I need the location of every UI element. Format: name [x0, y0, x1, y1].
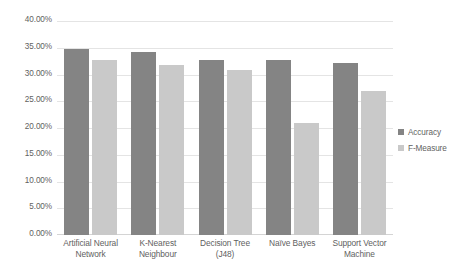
- bar-group: [259, 21, 326, 235]
- x-axis-category-label: Naïve Bayes: [259, 238, 326, 260]
- legend-swatch-icon: [398, 129, 404, 135]
- bar-fmeasure: [361, 91, 386, 235]
- bar-accuracy: [64, 49, 89, 235]
- bar-fmeasure: [92, 60, 117, 235]
- bar-group: [326, 21, 393, 235]
- bar-chart: 40.00% 35.00% 30.00% 25.00% 20.00% 15.00…: [0, 0, 464, 280]
- y-axis-tick-label: 25.00%: [0, 95, 52, 104]
- y-axis-tick-label: 15.00%: [0, 149, 52, 158]
- bar-accuracy: [199, 60, 224, 235]
- x-axis-category-label: K-Nearest Neighbour: [124, 238, 191, 260]
- x-axis-category-label: Decision Tree (J48): [191, 238, 258, 260]
- bar-accuracy: [266, 60, 291, 235]
- bar-group: [124, 21, 191, 235]
- y-axis-tick-label: 35.00%: [0, 42, 52, 51]
- legend-swatch-icon: [398, 145, 404, 151]
- bar-accuracy: [333, 63, 358, 235]
- x-axis-labels: Artificial Neural Network K-Nearest Neig…: [57, 238, 393, 260]
- x-axis-category-label: Support Vector Machine: [326, 238, 393, 260]
- y-axis-tick-label: 40.00%: [0, 15, 52, 24]
- bar-fmeasure: [227, 70, 252, 235]
- legend-item-accuracy: Accuracy: [398, 124, 447, 140]
- bar-fmeasure: [159, 65, 184, 235]
- bar-fmeasure: [294, 123, 319, 235]
- bar-groups: [57, 21, 393, 235]
- y-axis-tick-label: 20.00%: [0, 122, 52, 131]
- y-axis-tick-label: 30.00%: [0, 69, 52, 78]
- x-axis-category-label: Artificial Neural Network: [57, 238, 124, 260]
- bar-accuracy: [131, 52, 156, 236]
- chart-legend: Accuracy F-Measure: [398, 124, 447, 156]
- legend-label: F-Measure: [408, 144, 447, 153]
- bar-group: [57, 21, 124, 235]
- y-axis-tick-label: 5.00%: [0, 202, 52, 211]
- legend-item-fmeasure: F-Measure: [398, 140, 447, 156]
- y-axis-tick-label: 10.00%: [0, 176, 52, 185]
- legend-label: Accuracy: [408, 128, 441, 137]
- y-axis-tick-label: 0.00%: [0, 229, 52, 238]
- bar-group: [191, 21, 258, 235]
